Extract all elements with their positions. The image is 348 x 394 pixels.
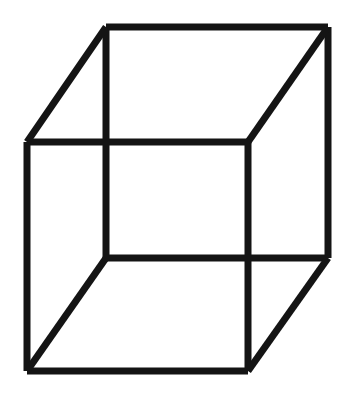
necker-cube-figure	[0, 0, 348, 394]
necker-cube-svg	[0, 0, 348, 394]
